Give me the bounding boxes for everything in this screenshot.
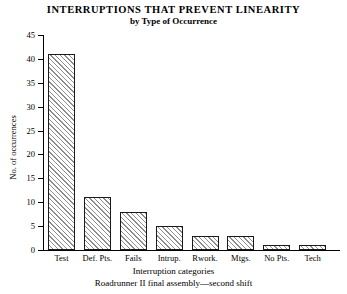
- y-axis-tick-label: 10: [5, 198, 35, 207]
- y-axis-tick: [38, 35, 43, 36]
- y-axis-tick-label: 35: [5, 79, 35, 88]
- bar[interactable]: [48, 54, 75, 250]
- y-axis-tick-label: 0: [5, 246, 35, 255]
- y-axis-tick-label: 20: [5, 150, 35, 159]
- y-axis-tick-label: 25: [5, 127, 35, 136]
- bar[interactable]: [120, 212, 147, 250]
- bar[interactable]: [299, 245, 326, 250]
- chart-subtitle: by Type of Occurrence: [0, 16, 347, 27]
- y-axis-tick: [38, 83, 43, 84]
- y-axis-tick: [38, 250, 43, 251]
- y-axis-tick: [38, 131, 43, 132]
- bar[interactable]: [84, 197, 111, 250]
- y-axis-tick: [38, 226, 43, 227]
- bar[interactable]: [156, 226, 183, 250]
- y-axis-tick: [38, 107, 43, 108]
- x-axis-line: [43, 250, 340, 251]
- y-axis-tick-label: 5: [5, 222, 35, 231]
- bar[interactable]: [192, 236, 219, 250]
- y-axis-tick-label: 30: [5, 103, 35, 112]
- x-axis-tick-label: Tech: [283, 253, 343, 263]
- y-axis-tick: [38, 178, 43, 179]
- y-axis-tick-label: 15: [5, 174, 35, 183]
- y-axis-tick: [38, 202, 43, 203]
- bar[interactable]: [263, 245, 290, 250]
- x-axis-title: Interruption categories: [0, 266, 347, 277]
- y-axis-tick-label: 40: [5, 55, 35, 64]
- bar[interactable]: [227, 236, 254, 250]
- plot-area: [44, 35, 340, 250]
- chart-footnote: Roadrunner II final assembly—second shif…: [0, 278, 347, 289]
- page-title: INTERRUPTIONS THAT PREVENT LINEARITY: [0, 4, 347, 16]
- y-axis-tick: [38, 154, 43, 155]
- y-axis-tick-label: 45: [5, 31, 35, 40]
- y-axis-tick: [38, 59, 43, 60]
